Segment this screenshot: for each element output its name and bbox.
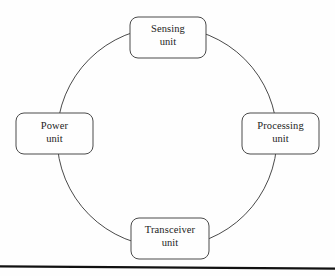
footer-rule bbox=[0, 266, 335, 268]
node-power-unit[interactable] bbox=[16, 113, 93, 154]
node-processing-unit[interactable] bbox=[242, 113, 319, 154]
node-transceiver-unit[interactable] bbox=[131, 218, 209, 259]
node-sensing-unit[interactable] bbox=[130, 17, 206, 58]
diagram-vector-layer bbox=[0, 0, 335, 276]
diagram-canvas: Sensing unit Processing unit Transceiver… bbox=[0, 0, 335, 276]
